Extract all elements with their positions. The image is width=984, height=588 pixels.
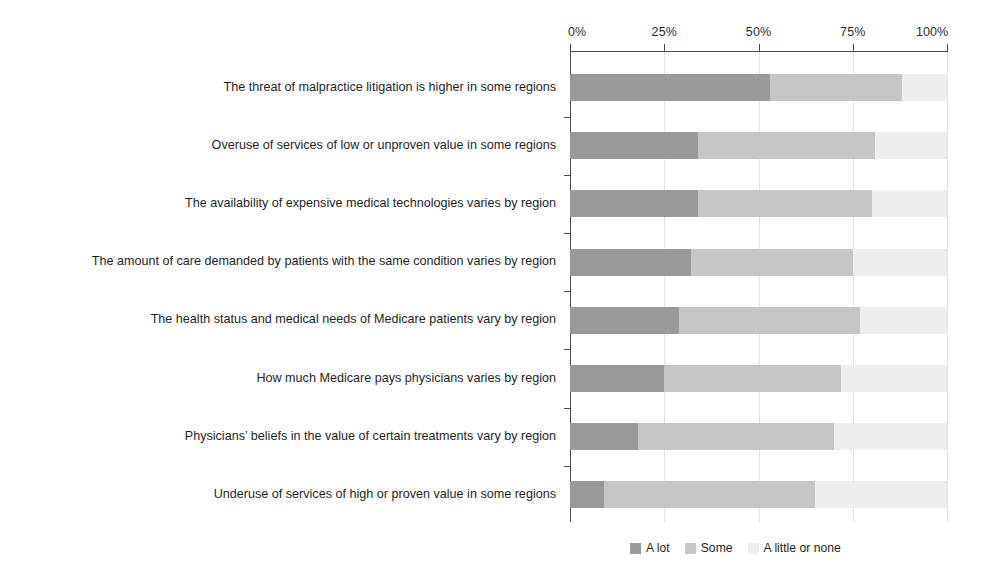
category-label: The amount of care demanded by patients … <box>0 254 556 268</box>
bar-segment-a-lot <box>570 132 698 159</box>
bar-segment-a-lot <box>570 365 664 392</box>
bar-segment-some <box>638 423 834 450</box>
x-tick-label-100: 100% <box>916 25 948 39</box>
bar-segment-a-lot <box>570 74 770 101</box>
category-label: Physicians’ beliefs in the value of cert… <box>0 429 556 443</box>
bar-segment-some <box>679 307 860 334</box>
legend-swatch-icon <box>748 543 759 554</box>
legend-swatch-icon <box>685 543 696 554</box>
gridline-100 <box>947 52 948 522</box>
bar-row <box>570 423 947 450</box>
bar-segment-a-lot <box>570 249 691 276</box>
bar-row <box>570 365 947 392</box>
plot-area <box>570 52 947 522</box>
bar-segment-a-little-or-none <box>853 249 947 276</box>
bar-row <box>570 481 947 508</box>
bar-segment-a-little-or-none <box>815 481 947 508</box>
legend-item: A lot <box>630 541 670 555</box>
bar-segment-some <box>664 365 841 392</box>
legend-label: A lot <box>646 541 670 555</box>
bar-segment-a-lot <box>570 307 679 334</box>
category-label: Underuse of services of high or proven v… <box>0 487 556 501</box>
bar-segment-a-lot <box>570 423 638 450</box>
category-label: How much Medicare pays physicians varies… <box>0 371 556 385</box>
bar-segment-a-little-or-none <box>902 74 947 101</box>
bar-segment-some <box>698 132 875 159</box>
category-label: The availability of expensive medical te… <box>0 196 556 210</box>
bar-segment-a-lot <box>570 481 604 508</box>
x-tick-label-75: 75% <box>840 25 865 39</box>
legend-item: Some <box>685 541 733 555</box>
bar-segment-some <box>770 74 902 101</box>
bar-segment-some <box>691 249 853 276</box>
bar-segment-a-little-or-none <box>860 307 947 334</box>
bar-segment-some <box>604 481 815 508</box>
bar-segment-a-lot <box>570 190 698 217</box>
bar-row <box>570 307 947 334</box>
x-tick-label-0: 0% <box>568 25 586 39</box>
bar-row <box>570 190 947 217</box>
category-label: The threat of malpractice litigation is … <box>0 80 556 94</box>
x-tick-label-25: 25% <box>652 25 677 39</box>
category-label: Overuse of services of low or unproven v… <box>0 138 556 152</box>
bar-segment-a-little-or-none <box>834 423 947 450</box>
x-tick-label-50: 50% <box>746 25 771 39</box>
bar-row <box>570 132 947 159</box>
legend-label: Some <box>701 541 733 555</box>
bar-row <box>570 249 947 276</box>
stacked-bar-chart: 0%25%50%75%100% The threat of malpractic… <box>0 0 984 588</box>
category-label: The health status and medical needs of M… <box>0 312 556 326</box>
legend-swatch-icon <box>630 543 641 554</box>
bar-segment-a-little-or-none <box>872 190 947 217</box>
bar-segment-some <box>698 190 871 217</box>
chart-legend: A lotSomeA little or none <box>630 541 850 555</box>
legend-item: A little or none <box>748 541 841 555</box>
bar-segment-a-little-or-none <box>875 132 947 159</box>
legend-label: A little or none <box>764 541 841 555</box>
bar-row <box>570 74 947 101</box>
bar-segment-a-little-or-none <box>841 365 947 392</box>
